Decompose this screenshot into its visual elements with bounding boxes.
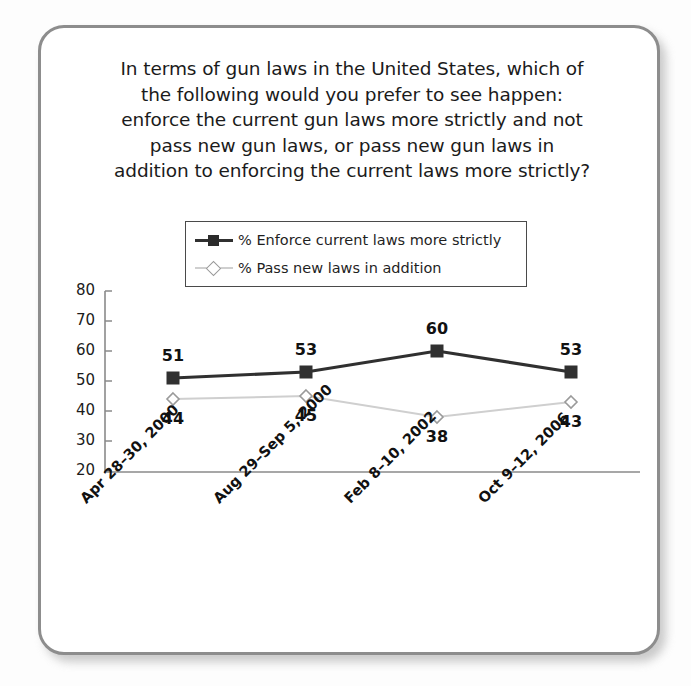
y-axis-tick-label: 50 — [61, 371, 95, 389]
legend-item-pass-new[interactable]: % Pass new laws in addition — [195, 257, 442, 279]
data-point-value-label: 53 — [560, 340, 582, 359]
y-axis-tick-label: 30 — [61, 431, 95, 449]
diamond-marker-icon — [195, 261, 233, 275]
chart-title: In terms of gun laws in the United State… — [96, 56, 608, 184]
y-axis-tick-label: 40 — [61, 401, 95, 419]
legend-item-enforce[interactable]: % Enforce current laws more strictly — [195, 229, 501, 251]
x-axis-tick-label: Feb 8–10, 2002 — [341, 408, 439, 506]
chart-title-line-2: the following would you prefer to see ha… — [96, 82, 608, 108]
chart-screenshot: In terms of gun laws in the United State… — [0, 0, 691, 686]
data-point-value-label: 38 — [426, 427, 448, 446]
square-marker-icon — [195, 233, 233, 247]
chart-title-line-5: addition to enforcing the current laws m… — [96, 158, 608, 184]
chart-legend: % Enforce current laws more strictly % P… — [185, 221, 527, 287]
chart-title-line-1: In terms of gun laws in the United State… — [96, 56, 608, 82]
y-axis-tick-label: 80 — [61, 281, 95, 299]
y-axis-tick-label: 20 — [61, 461, 95, 479]
x-axis-tick-label: Aug 29–Sep 5, 2000 — [210, 381, 335, 506]
legend-item-label: % Enforce current laws more strictly — [238, 232, 501, 248]
y-axis-tick-label: 70 — [61, 311, 95, 329]
chart-title-line-4: pass new gun laws, or pass new gun laws … — [96, 133, 608, 159]
chart-title-line-3: enforce the current gun laws more strict… — [96, 107, 608, 133]
x-axis-tick-label: Oct 9–12, 2006 — [475, 409, 572, 506]
data-point-value-label: 51 — [162, 346, 184, 365]
legend-item-label: % Pass new laws in addition — [238, 260, 442, 276]
data-point-value-label: 53 — [295, 340, 317, 359]
data-point-value-label: 60 — [426, 319, 448, 338]
chart-card: In terms of gun laws in the United State… — [38, 25, 660, 655]
y-axis-tick-label: 60 — [61, 341, 95, 359]
